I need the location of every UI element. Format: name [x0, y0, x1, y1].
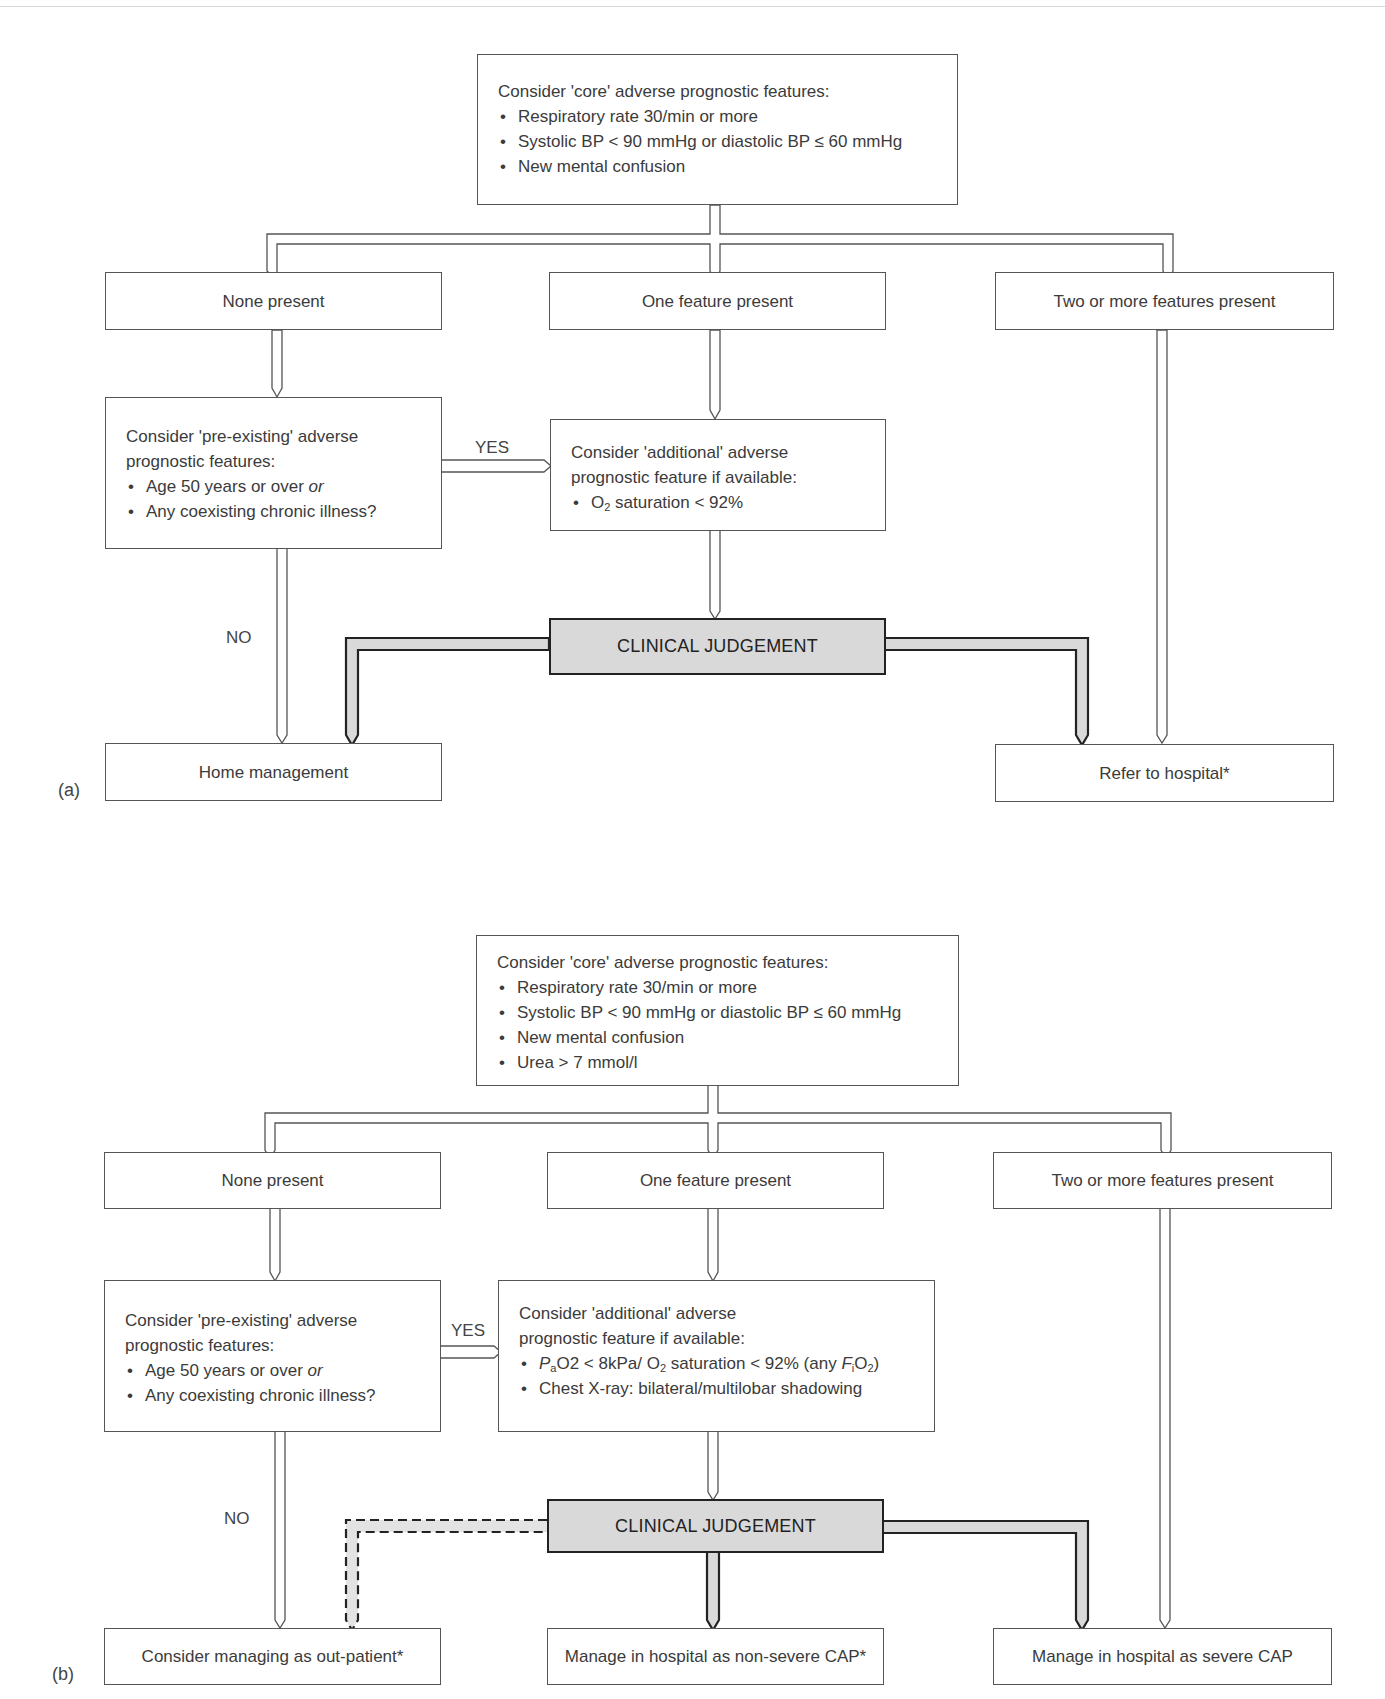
b-f-text: F	[841, 1354, 851, 1373]
b-preexisting-title-line1: Consider 'pre-existing' adverse	[125, 1311, 357, 1330]
a-one-feature-box: One feature present	[549, 272, 886, 330]
b-none-present-label: None present	[221, 1168, 323, 1193]
b-preexisting-title: Consider 'pre-existing' adverse prognost…	[125, 1308, 420, 1358]
a-none-present-label: None present	[222, 289, 324, 314]
b-preexisting-title-line2: prognostic features:	[125, 1336, 274, 1355]
b-panel-label: (b)	[52, 1664, 74, 1685]
a-additional-item: O2 saturation < 92%	[571, 490, 865, 515]
b-additional-list: PaO2 < 8kPa/ O2 saturation < 92% (any Fi…	[519, 1351, 914, 1401]
a-two-features-box: Two or more features present	[995, 272, 1334, 330]
a-yes-label: YES	[475, 438, 509, 458]
a-preexisting-title-line1: Consider 'pre-existing' adverse	[126, 427, 358, 446]
a-core-title: Consider 'core' adverse prognostic featu…	[498, 79, 937, 104]
b-additional-title: Consider 'additional' adverse prognostic…	[519, 1301, 914, 1351]
b-preexisting-item: Any coexisting chronic illness?	[125, 1383, 420, 1408]
b-outpatient-label: Consider managing as out-patient*	[142, 1644, 404, 1669]
b-o2-text: O	[854, 1354, 867, 1373]
a-age-text: Age 50 years or over	[146, 477, 309, 496]
b-core-item: Respiratory rate 30/min or more	[497, 975, 938, 1000]
b-additional-item: Chest X-ray: bilateral/multilobar shadow…	[519, 1376, 914, 1401]
a-additional-title-line1: Consider 'additional' adverse	[571, 443, 788, 462]
b-yes-label: YES	[451, 1321, 485, 1341]
a-core-item: Respiratory rate 30/min or more	[498, 104, 937, 129]
a-none-present-box: None present	[105, 272, 442, 330]
b-clinical-judgement-label: CLINICAL JUDGEMENT	[615, 1516, 816, 1537]
a-home-management-label: Home management	[199, 760, 348, 785]
a-preexisting-item: Any coexisting chronic illness?	[126, 499, 421, 524]
a-home-management-box: Home management	[105, 743, 442, 801]
a-additional-title-line2: prognostic feature if available:	[571, 468, 797, 487]
b-age-text: Age 50 years or over	[145, 1361, 308, 1380]
b-additional-box: Consider 'additional' adverse prognostic…	[498, 1280, 935, 1432]
a-preexisting-title-line2: prognostic features:	[126, 452, 275, 471]
b-two-features-label: Two or more features present	[1051, 1168, 1273, 1193]
b-outpatient-box: Consider managing as out-patient*	[104, 1628, 441, 1685]
b-or-text: or	[308, 1361, 323, 1380]
a-refer-hospital-box: Refer to hospital*	[995, 744, 1334, 802]
b-core-title: Consider 'core' adverse prognostic featu…	[497, 950, 938, 975]
b-additional-title-line1: Consider 'additional' adverse	[519, 1304, 736, 1323]
a-preexisting-item: Age 50 years or over or	[126, 474, 421, 499]
b-severe-box: Manage in hospital as severe CAP	[993, 1628, 1332, 1685]
b-no-label: NO	[224, 1509, 250, 1529]
b-additional-item: PaO2 < 8kPa/ O2 saturation < 92% (any Fi…	[519, 1351, 914, 1376]
b-preexisting-list: Age 50 years or over or Any coexisting c…	[125, 1358, 420, 1408]
a-clinical-judgement-box: CLINICAL JUDGEMENT	[549, 618, 886, 675]
b-severe-label: Manage in hospital as severe CAP	[1032, 1644, 1293, 1669]
a-two-features-label: Two or more features present	[1053, 289, 1275, 314]
a-refer-hospital-label: Refer to hospital*	[1099, 761, 1229, 786]
b-core-item: Systolic BP < 90 mmHg or diastolic BP ≤ …	[497, 1000, 938, 1025]
b-one-feature-box: One feature present	[547, 1152, 884, 1209]
a-additional-box: Consider 'additional' adverse prognostic…	[550, 419, 886, 531]
a-or-text: or	[309, 477, 324, 496]
b-mid-text: O2 < 8kPa/ O	[556, 1354, 659, 1373]
a-clinical-judgement-label: CLINICAL JUDGEMENT	[617, 636, 818, 657]
b-clinical-judgement-box: CLINICAL JUDGEMENT	[547, 1499, 884, 1553]
a-panel-label: (a)	[58, 780, 80, 801]
a-additional-list: O2 saturation < 92%	[571, 490, 865, 515]
b-preexisting-item: Age 50 years or over or	[125, 1358, 420, 1383]
b-core-list: Respiratory rate 30/min or more Systolic…	[497, 975, 938, 1075]
b-core-item: New mental confusion	[497, 1025, 938, 1050]
b-one-feature-label: One feature present	[640, 1168, 791, 1193]
b-additional-title-line2: prognostic feature if available:	[519, 1329, 745, 1348]
a-preexisting-title: Consider 'pre-existing' adverse prognost…	[126, 424, 421, 474]
b-none-present-box: None present	[104, 1152, 441, 1209]
flowchart-connectors: .w { fill: #fff; stroke: #555; stroke-wi…	[0, 0, 1385, 1699]
b-core-features-box: Consider 'core' adverse prognostic featu…	[476, 935, 959, 1086]
b-two-features-box: Two or more features present	[993, 1152, 1332, 1209]
a-preexisting-list: Age 50 years or over or Any coexisting c…	[126, 474, 421, 524]
a-core-item: New mental confusion	[498, 154, 937, 179]
a-sat-text: saturation < 92%	[610, 493, 743, 512]
a-one-feature-label: One feature present	[642, 289, 793, 314]
b-core-item: Urea > 7 mmol/l	[497, 1050, 938, 1075]
a-core-features-box: Consider 'core' adverse prognostic featu…	[477, 54, 958, 205]
b-p-text: P	[539, 1354, 550, 1373]
b-nonsevere-box: Manage in hospital as non-severe CAP*	[547, 1628, 884, 1685]
b-nonsevere-label: Manage in hospital as non-severe CAP*	[565, 1644, 866, 1669]
b-close-text: )	[874, 1354, 880, 1373]
b-rest-text: saturation < 92% (any	[666, 1354, 841, 1373]
a-additional-title: Consider 'additional' adverse prognostic…	[571, 440, 865, 490]
b-preexisting-box: Consider 'pre-existing' adverse prognost…	[104, 1280, 441, 1432]
a-core-item: Systolic BP < 90 mmHg or diastolic BP ≤ …	[498, 129, 937, 154]
a-o-text: O	[591, 493, 604, 512]
a-core-list: Respiratory rate 30/min or more Systolic…	[498, 104, 937, 179]
a-preexisting-box: Consider 'pre-existing' adverse prognost…	[105, 397, 442, 549]
a-no-label: NO	[226, 628, 252, 648]
